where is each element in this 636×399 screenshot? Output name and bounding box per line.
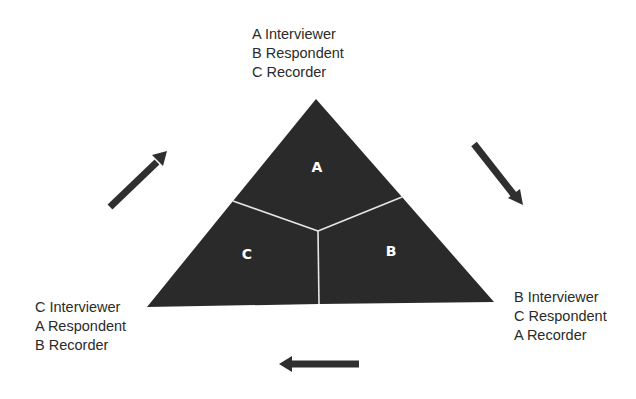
segment-label-b: B — [386, 243, 397, 259]
rotation-diagram: A B C — [0, 0, 636, 399]
arrow-left-icon — [279, 356, 359, 372]
segment-label-a: A — [312, 159, 323, 175]
arrow-down-right-icon — [474, 144, 523, 205]
arrow-up-right-icon — [110, 151, 167, 207]
divider-line — [318, 231, 319, 304]
segment-label-c: C — [242, 246, 252, 262]
